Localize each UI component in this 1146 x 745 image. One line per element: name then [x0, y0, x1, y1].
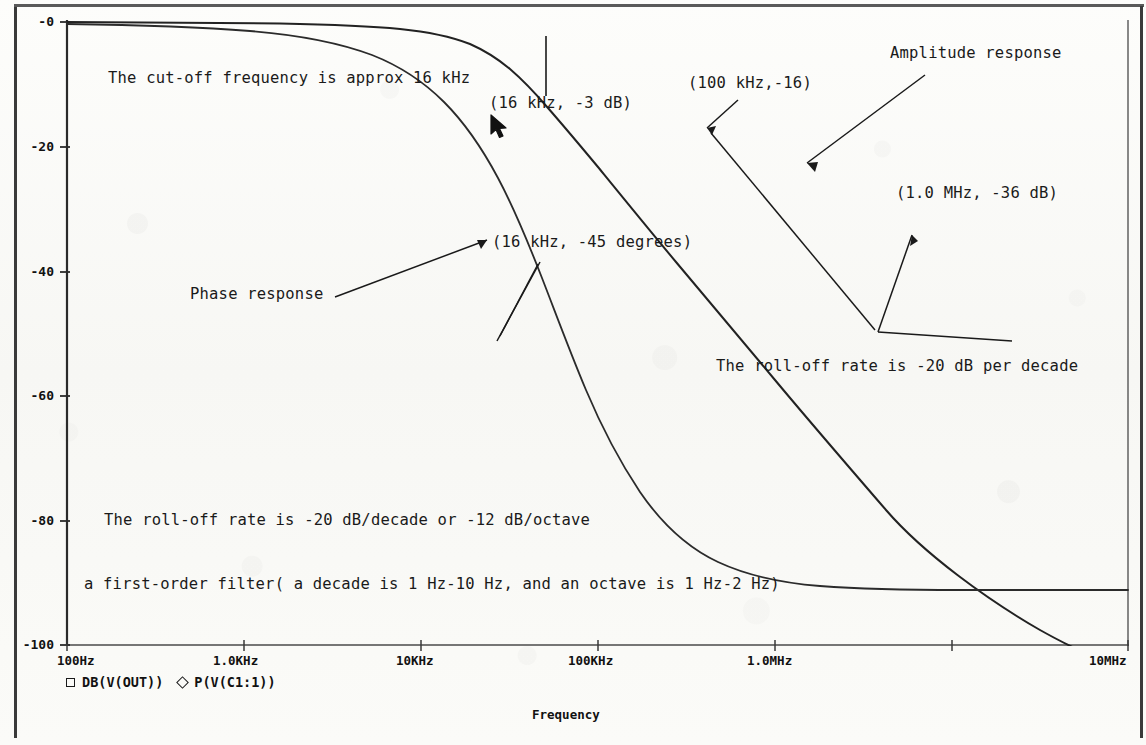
y-tick-label: -0	[8, 15, 54, 28]
x-tick-label: 100KHz	[568, 655, 613, 668]
y-tick-label: -20	[8, 140, 54, 153]
annotation-amplitude-response: Amplitude response	[890, 46, 1062, 62]
diamond-marker	[176, 676, 189, 689]
annotation-point-100k-16: (100 kHz,-16)	[688, 76, 812, 92]
y-tick-label: -40	[8, 265, 54, 278]
annotation-point-16k-3db: (16 kHz, -3 dB)	[489, 96, 632, 112]
y-tick-label: -100	[8, 638, 54, 651]
annotation-cutoff-note: The cut-off frequency is approx 16 kHz	[108, 71, 470, 87]
annotation-rolloff-left: The roll-off rate is -20 dB/decade or -1…	[104, 513, 590, 529]
legend-label-amplitude: DB(V(OUT))	[82, 676, 163, 690]
annotation-rolloff-right: The roll-off rate is -20 dB per decade	[716, 359, 1078, 375]
x-tick-label: 10MHz	[1089, 655, 1127, 668]
y-tick-label: -60	[8, 389, 54, 402]
square-marker	[66, 678, 75, 687]
legend-label-phase: P(V(C1:1))	[194, 676, 275, 690]
x-tick-label: 100Hz	[57, 655, 95, 668]
y-tick-label: -80	[8, 514, 54, 527]
y-tick-marks	[60, 22, 70, 645]
annotation-phase-response: Phase response	[190, 287, 323, 303]
plot-legend: DB(V(OUT)) P(V(C1:1))	[66, 676, 276, 690]
x-axis-title: Frequency	[532, 709, 600, 722]
x-tick-label: 10KHz	[396, 655, 434, 668]
x-tick-label: 1.0MHz	[747, 655, 792, 668]
annotation-decade-octave: a first-order filter( a decade is 1 Hz-1…	[84, 577, 780, 593]
plot-axes	[67, 20, 1129, 646]
annotation-point-16k-45deg: (16 kHz, -45 degrees)	[492, 235, 692, 251]
x-tick-label: 1.0KHz	[213, 655, 258, 668]
annotation-point-1m-36db: (1.0 MHz, -36 dB)	[896, 186, 1058, 202]
mouse-pointer-icon	[489, 113, 511, 143]
